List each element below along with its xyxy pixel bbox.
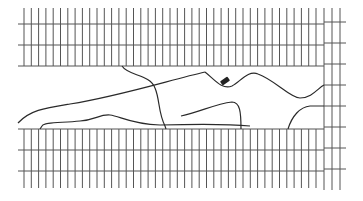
building-marker xyxy=(220,76,230,85)
street-map xyxy=(0,0,363,201)
lower-road xyxy=(40,115,250,129)
crossing-road xyxy=(122,66,166,129)
right-bulge xyxy=(288,106,324,129)
map-canvas xyxy=(0,0,363,201)
